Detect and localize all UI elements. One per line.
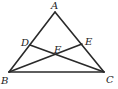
label-c: C [106,74,114,85]
label-a: A [50,0,58,11]
label-b: B [0,75,8,86]
triangle-diagram: A D E F B C [0,0,118,89]
label-d: D [20,37,29,48]
label-f: F [53,44,62,55]
label-e: E [84,36,93,47]
